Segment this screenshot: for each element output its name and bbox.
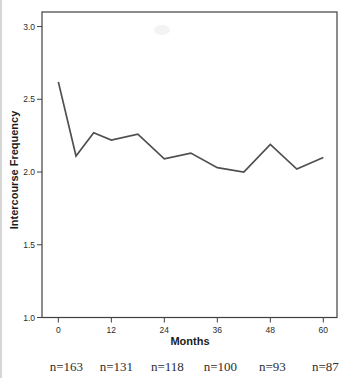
y-tick-label: 1.0 [23,313,35,323]
figure: 3.02.52.01.51.0 01224364860 Months Inter… [0,0,347,378]
sample-size-label: n=131 [100,359,133,374]
sample-size-label: n=118 [151,359,184,374]
scan-smudge-artifact [154,25,170,35]
y-axis-title: Intercourse Frequency [8,110,20,229]
frequency-trend-line [58,82,323,172]
sample-size-label: n=93 [259,359,286,374]
y-tick-label: 2.5 [23,94,35,104]
x-axis-title: Months [170,335,209,347]
x-tick-label: 60 [319,325,329,335]
y-axis: 3.02.52.01.51.0 [23,22,42,323]
x-tick-label: 36 [213,325,223,335]
x-tick-label: 12 [107,325,117,335]
y-tick-label: 2.0 [23,167,35,177]
x-axis: 01224364860 [56,318,328,336]
x-tick-label: 24 [160,325,170,335]
sample-size-row: n=163n=131n=118n=100n=93n=87 [50,359,340,374]
x-tick-label: 0 [56,325,61,335]
sample-size-label: n=163 [50,359,83,374]
sample-size-label: n=87 [312,359,339,374]
x-tick-label: 48 [266,325,276,335]
intercourse-frequency-line-chart: 3.02.52.01.51.0 01224364860 Months Inter… [0,0,347,378]
y-tick-label: 3.0 [23,22,35,32]
sample-size-label: n=100 [204,359,237,374]
y-tick-label: 1.5 [23,240,35,250]
